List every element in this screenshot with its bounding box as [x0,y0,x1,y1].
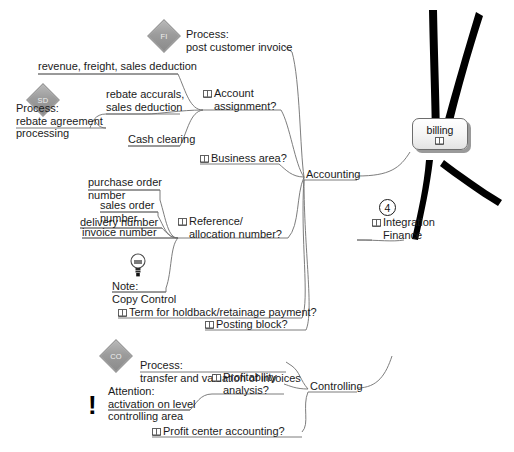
node-profitability-analysis[interactable]: Profitability analysis? [212,371,277,396]
node-line: analysis? [212,384,277,397]
link-acc-business-area [279,164,304,177]
node-account-assignment[interactable]: Account assignment? [203,87,276,112]
book-icon [372,219,381,227]
node-revenue-freight-sales-deduction[interactable]: revenue, freight, sales deduction [38,60,197,73]
node-line-with-icon: Business area? [200,152,287,165]
node-rebate-accurals[interactable]: rebate accurals, sales deduction [106,88,184,113]
node-cash-clearing[interactable]: Cash clearing [128,133,195,146]
node-line-with-icon: Profitability [212,371,277,384]
book-icon [205,321,214,329]
node-line-with-icon: Account [203,87,276,100]
book-icon [200,155,209,163]
badge-fi-diamond: FI [147,19,181,53]
lightbulb-icon [128,253,148,279]
badge-co-label: CO [105,345,127,367]
node-line: sales deduction [106,101,184,114]
badge-fi-label: FI [153,25,175,47]
node-line: Attention: [108,385,195,398]
node-process-post-customer-invoice[interactable]: Process: post customer invoice [186,28,292,53]
node-line: revenue, freight, sales deduction [38,60,197,73]
book-icon [118,309,127,317]
node-line: Finance [372,229,435,242]
node-profit-center-accounting[interactable]: Profit center accounting? [152,425,285,438]
node-line: post customer invoice [186,41,292,54]
node-line: Note: [112,280,176,293]
link-acc-term-holdback [302,177,305,318]
node-line: Controlling [310,380,363,393]
node-line: Copy Control [112,293,176,306]
node-line: assignment? [203,100,276,113]
node-line-with-icon: Profit center accounting? [152,425,285,438]
link-accounting-to-central [357,152,410,176]
node-line-with-icon: Posting block? [205,318,288,331]
node-attention-activation[interactable]: Attention: activation on level controlli… [108,385,195,423]
node-purchase-order-number[interactable]: purchase order number [88,176,162,201]
book-icon [435,137,444,145]
node-note-copy-control[interactable]: Note: Copy Control [112,280,176,305]
node-line: rebate agreement [16,115,103,128]
node-line: rebate accurals, [106,88,184,101]
node-controlling[interactable]: Controlling [310,380,363,393]
node-invoice-number[interactable]: invoice number [82,226,157,239]
book-icon [152,428,161,436]
node-line: Process: [140,359,301,372]
node-line: sales order [100,199,154,212]
node-label: Integration [383,216,435,228]
book-icon [212,374,221,382]
badge-co-diamond: CO [99,339,133,373]
node-line-with-icon: Reference/ [178,215,282,228]
node-line-with-icon: Term for holdback/retainage payment? [118,306,317,319]
node-process-rebate-agreement-processing[interactable]: Process: rebate agreement processing [16,102,103,140]
exclamation-icon: ! [88,392,97,418]
node-line: processing [16,127,103,140]
link-ctrl-profit-center [302,392,308,432]
node-label: Business area? [211,152,287,164]
node-line: controlling area [108,410,195,423]
node-line: activation on level [108,398,195,411]
node-label: Profitability [223,371,277,383]
link-acc-account-assignment [281,110,304,177]
thick-branch-lower-right [440,160,502,206]
node-line: Process: [16,102,103,115]
node-line: Accounting [306,168,360,181]
mind-map-canvas: FI SD CO ! 4 billing Process: post custo… [0,0,514,452]
link-acc-post-invoice [284,46,304,177]
node-reference-allocation-number[interactable]: Reference/ allocation number? [178,215,282,240]
node-posting-block[interactable]: Posting block? [205,318,288,331]
link-acc-reference [288,177,304,238]
link-ctrl-profitability [284,384,308,389]
book-icon [203,90,212,98]
central-node-billing[interactable]: billing [412,118,468,150]
book-icon [178,218,187,226]
node-label: Posting block? [216,318,288,330]
node-label: Term for holdback/retainage payment? [129,306,317,318]
node-integration-finance[interactable]: Integration Finance [372,216,435,241]
node-line: purchase order [88,176,162,189]
node-label: Account [214,87,254,99]
node-label: Profit center accounting? [163,425,285,437]
node-accounting[interactable]: Accounting [306,168,360,181]
node-label: Reference/ [189,215,243,227]
node-business-area[interactable]: Business area? [200,152,287,165]
node-line-with-icon: Integration [372,216,435,229]
node-line: Cash clearing [128,133,195,146]
node-term-for-holdback[interactable]: Term for holdback/retainage payment? [118,306,317,319]
node-line: invoice number [82,226,157,239]
integration-marker-circle: 4 [379,199,396,216]
central-node-label: billing [427,124,454,136]
node-line: Process: [186,28,292,41]
node-line: allocation number? [178,228,282,241]
integration-marker-label: 4 [385,202,391,214]
